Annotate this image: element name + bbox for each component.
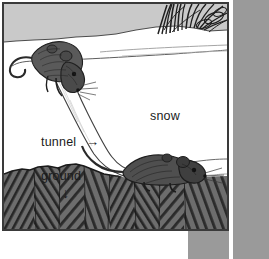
label-snow: snow [150,109,180,123]
outer-white-gutter [229,0,233,259]
outer-panel-right-upper [232,0,269,108]
illustration-frame: snow tunnel → ground ↓ [2,2,229,231]
ground-arrow-icon: ↓ [62,186,69,200]
cross-section-artwork [4,4,227,229]
label-tunnel: tunnel [41,135,76,149]
label-ground: ground [41,169,81,183]
tunnel-arrow-icon: → [86,135,99,148]
illustration-stage: snow tunnel → ground ↓ [0,0,269,259]
